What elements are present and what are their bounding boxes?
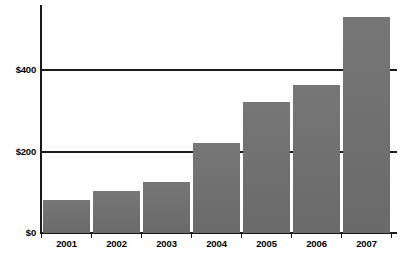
x-axis-tick — [141, 233, 142, 238]
x-axis-tick — [191, 233, 192, 238]
x-axis-label: 2007 — [342, 239, 392, 249]
x-axis-label: 2002 — [92, 239, 142, 249]
x-axis-label: 2006 — [292, 239, 342, 249]
x-axis-tick — [291, 233, 292, 238]
bar — [193, 143, 240, 233]
bar — [293, 85, 340, 233]
x-axis-tick — [241, 233, 242, 238]
bar — [243, 102, 290, 233]
bar-chart: $400 $200 $0 200120022003200420052006200… — [0, 0, 408, 253]
bars-layer: 2001200220032004200520062007 — [0, 0, 408, 253]
bar-shading — [93, 191, 140, 233]
bar-shading — [143, 182, 190, 233]
bar — [43, 200, 90, 233]
bar — [343, 17, 390, 233]
bar-shading — [193, 143, 240, 233]
bar-shading — [43, 200, 90, 233]
x-axis-label: 2004 — [192, 239, 242, 249]
x-axis-label: 2005 — [242, 239, 292, 249]
x-axis-tick — [341, 233, 342, 238]
bar-shading — [343, 17, 390, 233]
bar — [143, 182, 190, 233]
x-axis-tick — [91, 233, 92, 238]
bar — [93, 191, 140, 233]
bar-shading — [243, 102, 290, 233]
x-axis-label: 2003 — [142, 239, 192, 249]
x-axis-tick — [391, 233, 392, 238]
x-axis-label: 2001 — [42, 239, 92, 249]
bar-shading — [293, 85, 340, 233]
x-axis-tick — [41, 233, 42, 238]
